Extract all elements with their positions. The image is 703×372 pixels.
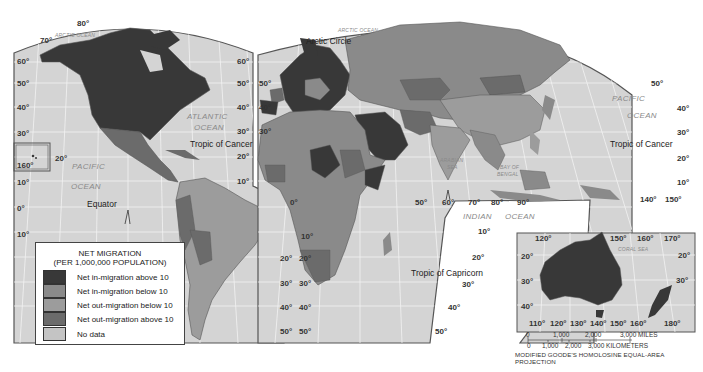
pacific-ocean-label-east-2: OCEAN [627,112,657,120]
lat-label: 30° [677,129,689,137]
lon-label: 80° [491,199,503,207]
bay-of-bengal-label-1: BAY OF [500,165,519,170]
lat-label: 50° [435,328,447,336]
lon-label: 120° [535,235,552,243]
lat-label: 10° [301,233,313,241]
lat-label: 30° [237,128,249,136]
lon-label: 150° [665,196,682,204]
lat-label: 40° [259,104,271,112]
legend-label: Net out-migration above 10 [77,315,174,324]
scale-km-3000: 3,000 KILOMETERS [588,342,648,349]
tropic-of-cancer-label-east: Tropic of Cancer [610,140,673,149]
bay-of-bengal-label-2: BENGAL [497,172,519,177]
lon-label: 160° [637,235,654,243]
lat-label: 20° [521,253,533,261]
lat-label: 10° [478,228,490,236]
lat-label: 20° [55,155,67,163]
arctic-circle-label: Arctic Circle [306,37,351,46]
lat-label: 40° [521,303,533,311]
lat-label: 20° [677,155,689,163]
pacific-ocean-label-west-2: OCEAN [71,183,101,191]
lat-label: 30° [299,280,311,288]
lon-label: 90° [517,199,529,207]
lon-label: 60° [442,199,454,207]
lon-label: 150° [610,320,627,328]
legend-label: Net out-migration below 10 [77,301,173,310]
arctic-ocean-label-east: ARCTIC OCEAN [338,28,378,33]
scale-km-0: 0 [527,342,531,349]
lat-label: 50° [17,80,29,88]
lat-label: 40° [280,304,292,312]
australia-inset [517,232,695,332]
arctic-ocean-label-west: ARCTIC OCEAN [55,33,95,38]
scale-miles-0: 0 [526,331,530,338]
lon-label: 130° [570,320,587,328]
lat-label: 50° [299,328,311,336]
scale-km-2000: 2,000 [565,342,581,349]
indian-ocean-label-1: INDIAN [463,213,492,221]
lat-label: 50° [259,80,271,88]
lon-label: 50° [415,199,427,207]
lat-label: 30° [259,128,271,136]
lat-label: 0° [17,205,25,213]
legend-label: Net in-migration below 10 [77,287,168,296]
legend-swatch-out-below [43,298,66,312]
legend-item: Net in-migration below 10 [43,284,168,298]
lat-label: 70° [40,37,52,45]
legend-item: No data [43,327,105,341]
legend-swatch-in-below [43,284,66,298]
lat-label: 30° [676,277,688,285]
lat-label: 80° [77,20,89,28]
atlantic-ocean-label-1: ATLANTIC [187,113,227,121]
lat-label: 10° [17,179,29,187]
map-legend: NET MIGRATION (PER 1,000,000 POPULATION)… [35,242,185,345]
lat-label: 10° [677,179,689,187]
legend-item: Net out-migration above 10 [43,312,174,326]
lat-label: 40° [237,104,249,112]
borneo [520,170,550,190]
lon-label: 180° [664,320,681,328]
scale-km-1000: 1,000 [542,342,558,349]
legend-swatch-out-above [43,312,66,326]
atlantic-ocean-label-2: OCEAN [194,124,224,132]
world-migration-map: ARCTIC OCEAN ARCTIC OCEAN ATLANTIC OCEAN… [0,0,703,372]
lat-label: 20° [678,252,690,260]
indian-ocean-label-2: OCEAN [505,213,535,221]
legend-swatch-in-above [43,270,66,284]
lon-label: 160° [17,162,34,170]
pacific-ocean-label-east-1: PACIFIC [612,95,645,103]
projection-label: MODIFIED GOODE'S HOMOLOSINE EQUAL-AREA P… [515,351,703,365]
lat-label: 50° [651,80,663,88]
lon-label: 160° [630,320,647,328]
tropic-of-cancer-label-west: Tropic of Cancer [190,140,253,149]
lon-label: 170° [664,235,681,243]
lat-label: 30° [17,130,29,138]
lat-label: 20° [237,153,249,161]
equator-label: Equator [87,200,117,209]
tropic-of-capricorn-label: Tropic of Capricorn [411,269,483,278]
legend-subtitle: (PER 1,000,000 POPULATION) [36,258,184,267]
lat-label: 40° [448,304,460,312]
lat-label: 30° [280,280,292,288]
scale-miles-1000: 1,000 [553,331,569,338]
lon-label: 70° [468,199,480,207]
lat-label: 20° [299,255,311,263]
lat-label: 50° [237,80,249,88]
lon-label: 110° [529,320,545,328]
lat-label: 40° [677,105,689,113]
lon-label: 120° [550,320,567,328]
lat-label: 60° [17,58,29,66]
lat-label: 40° [299,304,311,312]
lat-label: 50° [280,328,292,336]
arabian-sea-label-2: SEA [447,165,458,170]
legend-label: No data [77,330,105,339]
lat-label: 10° [237,178,249,186]
lon-label: 140° [640,196,657,204]
legend-swatch-no-data [43,327,66,341]
lat-label: 20° [280,255,292,263]
lat-label: 60° [237,58,249,66]
lat-label: 20° [472,254,484,262]
legend-title: NET MIGRATION [36,249,184,258]
lat-label: 10° [17,231,29,239]
legend-item: Net in-migration above 10 [43,270,169,284]
